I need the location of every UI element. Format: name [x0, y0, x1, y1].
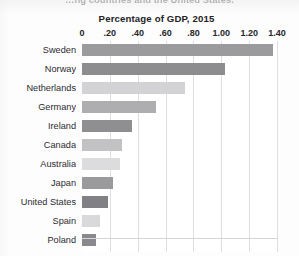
bar-category-label: Poland [0, 231, 76, 250]
x-axis-tick-labels: 0.20.40.60.801.001.201.40 [0, 27, 299, 40]
bar-category-label: Australia [0, 155, 76, 174]
bar [82, 158, 120, 170]
bar-row: Poland [0, 231, 299, 250]
bar-row: Norway [0, 60, 299, 79]
bar-category-label: Ireland [0, 117, 76, 136]
cut-off-headline: …ng countries and the United States. [0, 0, 299, 6]
bar [82, 63, 225, 75]
plot-baseline [82, 238, 278, 239]
x-tick-label: 0 [79, 27, 84, 40]
x-tick-label: .80 [187, 27, 200, 40]
bar [82, 215, 100, 227]
bar-category-label: Sweden [0, 41, 76, 60]
bar-row: Canada [0, 136, 299, 155]
bar [82, 234, 96, 246]
bar-row: Germany [0, 98, 299, 117]
bar [82, 101, 156, 113]
bar-row: Ireland [0, 117, 299, 136]
bar-category-label: Canada [0, 136, 76, 155]
bar [82, 177, 113, 189]
bar-row: Netherlands [0, 79, 299, 98]
bar [82, 196, 108, 208]
bar-category-label: Norway [0, 60, 76, 79]
bar-category-label: United States [0, 193, 76, 212]
bar [82, 120, 132, 132]
bars-layer: SwedenNorwayNetherlandsGermanyIrelandCan… [0, 41, 299, 252]
chart-page: …ng countries and the United States. Per… [0, 0, 299, 256]
bar-category-label: Germany [0, 98, 76, 117]
x-tick-label: 1.20 [240, 27, 258, 40]
bar-category-label: Japan [0, 174, 76, 193]
bar-row: United States [0, 193, 299, 212]
bar [82, 82, 185, 94]
x-tick-label: .40 [131, 27, 144, 40]
bar [82, 44, 273, 56]
bar-row: Australia [0, 155, 299, 174]
plot-wrapper: 0.20.40.60.801.001.201.40 SwedenNorwayNe… [0, 27, 299, 256]
bar-row: Spain [0, 212, 299, 231]
x-tick-label: .60 [159, 27, 172, 40]
chart-title: Percentage of GDP, 2015 [0, 13, 299, 24]
x-tick-label: .20 [104, 27, 117, 40]
bar [82, 139, 122, 151]
x-tick-label: 1.00 [213, 27, 231, 40]
headline-text: …ng countries and the United States. [0, 0, 299, 6]
bar-category-label: Netherlands [0, 79, 76, 98]
x-tick-label: 1.40 [268, 27, 286, 40]
bar-category-label: Spain [0, 212, 76, 231]
bar-row: Japan [0, 174, 299, 193]
bar-row: Sweden [0, 41, 299, 60]
